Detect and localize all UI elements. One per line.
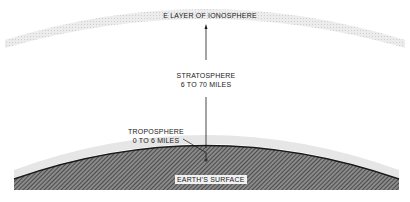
ionosphere-label: E LAYER OF IONOSPHERE: [160, 11, 260, 20]
stratosphere-name: STRATOSPHERE: [166, 71, 246, 80]
troposphere-range: 0 TO 6 MILES: [126, 136, 186, 145]
stratosphere-label: STRATOSPHERE 6 TO 70 MILES: [166, 71, 246, 89]
earth-surface-label: EARTH'S SURFACE: [175, 175, 247, 184]
stratosphere-range: 6 TO 70 MILES: [166, 80, 246, 89]
arrowhead-up-icon: [205, 24, 208, 29]
diagram-graphics: [0, 0, 410, 202]
atmosphere-diagram: E LAYER OF IONOSPHERE STRATOSPHERE 6 TO …: [0, 0, 410, 202]
troposphere-name: TROPOSPHERE: [126, 127, 186, 136]
troposphere-label: TROPOSPHERE 0 TO 6 MILES: [126, 127, 186, 145]
